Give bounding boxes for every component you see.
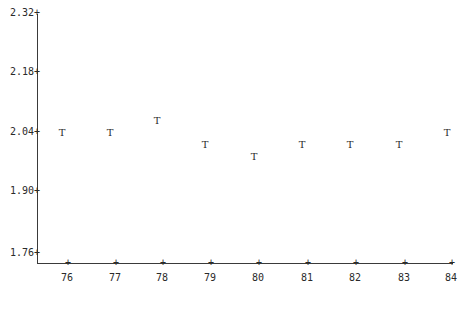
x-tick-mark: + bbox=[447, 258, 457, 268]
x-tick-mark: + bbox=[303, 258, 313, 268]
x-tick-label: 80 bbox=[246, 273, 270, 283]
y-tick-label: 1.76+ bbox=[0, 248, 40, 258]
data-point-marker: T bbox=[249, 152, 259, 162]
data-point-marker: T bbox=[152, 116, 162, 126]
y-axis-line bbox=[37, 14, 38, 264]
y-tick-label: 2.04+ bbox=[0, 127, 40, 137]
x-tick-label: 79 bbox=[198, 273, 222, 283]
x-tick-label: 84 bbox=[439, 273, 463, 283]
x-tick-mark: + bbox=[351, 258, 361, 268]
x-tick-label: 78 bbox=[150, 273, 174, 283]
data-point-marker: T bbox=[105, 128, 115, 138]
y-tick-label: 2.18+ bbox=[0, 67, 40, 77]
data-point-marker: T bbox=[297, 140, 307, 150]
x-tick-label: 83 bbox=[392, 273, 416, 283]
x-tick-mark: + bbox=[400, 258, 410, 268]
data-point-marker: T bbox=[200, 140, 210, 150]
chart-plot-area: 2.32+ 2.18+ 2.04+ 1.90+ 1.76+ + + + + + … bbox=[0, 0, 468, 321]
data-point-marker: T bbox=[394, 140, 404, 150]
y-tick-label: 1.90+ bbox=[0, 186, 40, 196]
x-tick-mark: + bbox=[111, 258, 121, 268]
data-point-marker: T bbox=[442, 128, 452, 138]
x-tick-mark: + bbox=[63, 258, 73, 268]
x-tick-mark: + bbox=[158, 258, 168, 268]
data-point-marker: T bbox=[345, 140, 355, 150]
data-point-marker: T bbox=[57, 128, 67, 138]
x-axis-line bbox=[37, 263, 453, 264]
x-tick-mark: + bbox=[254, 258, 264, 268]
x-tick-label: 76 bbox=[55, 273, 79, 283]
y-tick-label: 2.32+ bbox=[0, 8, 40, 18]
x-tick-label: 81 bbox=[295, 273, 319, 283]
x-tick-label: 77 bbox=[103, 273, 127, 283]
x-tick-label: 82 bbox=[343, 273, 367, 283]
x-tick-mark: + bbox=[206, 258, 216, 268]
